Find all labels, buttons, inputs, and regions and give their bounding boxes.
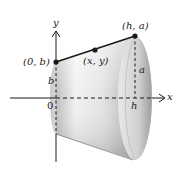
point-h-a <box>132 33 137 38</box>
frustum-diagram <box>0 0 185 176</box>
point-label-0-b: (0, b) <box>23 57 50 67</box>
point-label-x-y: (x, y) <box>83 56 108 66</box>
point-0-b <box>53 59 58 64</box>
radius-label-a: a <box>139 65 145 75</box>
point-x-y <box>92 47 97 52</box>
radius-label-b: b <box>48 76 54 86</box>
height-label-h: h <box>131 101 137 111</box>
x-axis-label: x <box>167 92 173 102</box>
y-axis-label: y <box>53 18 59 28</box>
point-label-h-a: (h, a) <box>122 21 149 31</box>
origin-label: 0 <box>47 101 53 111</box>
